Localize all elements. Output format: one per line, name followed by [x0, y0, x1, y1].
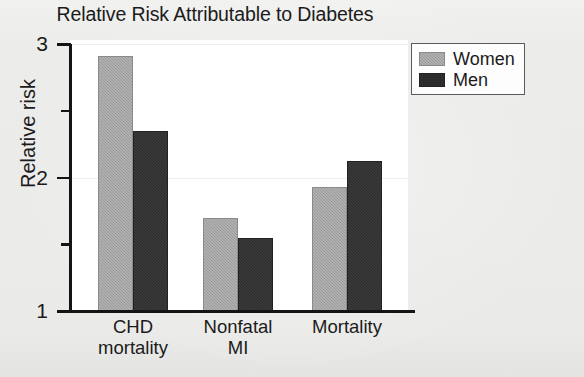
x-axis-line: [58, 310, 415, 313]
chart-legend: WomenMen: [411, 43, 525, 95]
bar-women-nonfatal-mi: [203, 218, 238, 311]
y-axis-tick-major: [57, 43, 71, 46]
y-axis-tick-label: 1: [18, 300, 48, 321]
x-axis-label-mortality: Mortality: [277, 316, 417, 337]
x-axis-label-line: MI: [168, 337, 308, 358]
y-axis-tick-minor: [61, 243, 71, 246]
legend-swatch-women: [419, 52, 445, 66]
bar-chart-figure: Relative Risk Attributable to Diabetes 1…: [0, 0, 584, 377]
y-axis-tick-minor: [61, 110, 71, 113]
legend-swatch-men: [419, 73, 445, 87]
bar-men-nonfatal-mi: [238, 238, 273, 311]
gridline: [70, 44, 408, 45]
y-axis-tick-major: [57, 310, 71, 313]
bar-men-chd-mortality: [133, 131, 168, 311]
plot-area: [70, 40, 408, 311]
chart-title: Relative Risk Attributable to Diabetes: [0, 3, 430, 26]
bar-women-mortality: [312, 187, 347, 311]
legend-label: Men: [453, 71, 488, 89]
y-axis-tick-major: [57, 177, 71, 180]
legend-label: Women: [453, 50, 515, 68]
y-axis-title: Relative risk: [17, 44, 40, 224]
bar-women-chd-mortality: [98, 56, 133, 311]
legend-item-women: Women: [419, 49, 524, 69]
x-axis-label-line: Mortality: [277, 316, 417, 337]
legend-item-men: Men: [419, 70, 524, 90]
bar-men-mortality: [347, 161, 382, 311]
